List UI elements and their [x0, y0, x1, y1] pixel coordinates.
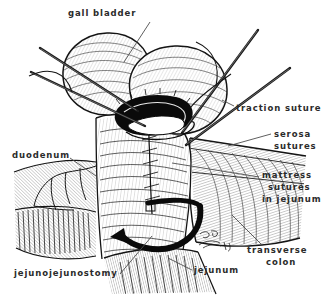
label-jejunum: jejunum	[194, 265, 239, 277]
label-transverse: transverse	[247, 245, 307, 257]
label-colon: colon	[266, 257, 296, 269]
label-in-jejunum: in jejunum	[262, 194, 322, 206]
surgical-illustration-figure: gall bladder traction suture serosa sutu…	[0, 0, 328, 298]
label-jejunojejunostomy: jejunojejunostomy	[14, 268, 118, 280]
label-duodenum: duodenum	[12, 150, 70, 162]
label-mattress: mattress	[262, 170, 312, 182]
label-serosa-sutures: sutures	[274, 141, 317, 153]
label-mattress-sutures: sutures	[268, 182, 311, 194]
label-serosa: serosa	[274, 129, 311, 141]
label-gall-bladder: gall bladder	[68, 8, 136, 20]
label-traction-suture: traction suture	[236, 103, 322, 115]
